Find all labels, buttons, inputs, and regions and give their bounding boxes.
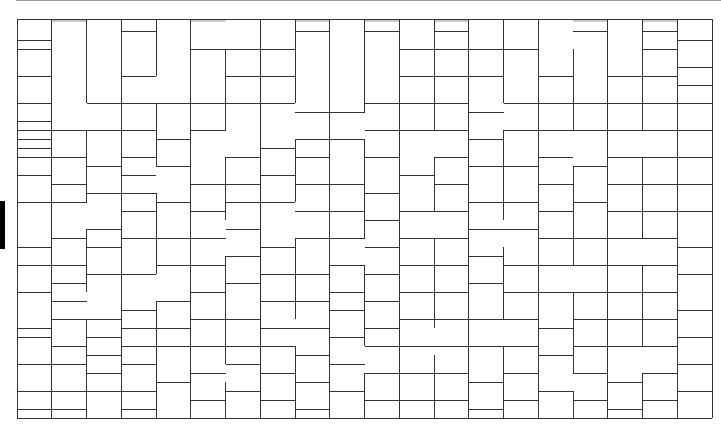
rectangle-grid-pattern: [0, 0, 721, 440]
